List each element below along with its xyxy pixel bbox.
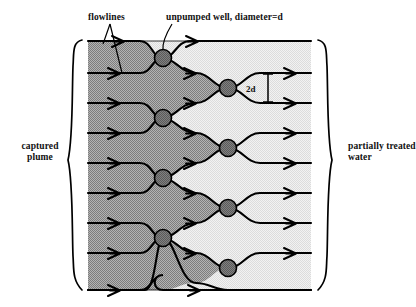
spacing-2d-label: 2d — [246, 84, 256, 94]
partially-treated-water-label: partially treated water — [348, 141, 416, 162]
unpumped-well[interactable] — [155, 50, 172, 67]
unpumped-well[interactable] — [155, 110, 172, 127]
unpumped-well-label: unpumped well, diameter=d — [166, 12, 283, 23]
left-brace — [68, 40, 82, 290]
unpumped-well[interactable] — [220, 140, 237, 157]
unpumped-well[interactable] — [220, 260, 237, 277]
flowlines-label: flowlines — [88, 12, 125, 23]
diagram-canvas: flowlines unpumped well, diameter=d 2d c… — [0, 0, 416, 307]
unpumped-well[interactable] — [220, 200, 237, 217]
captured-plume-label: captured plume — [9, 141, 71, 162]
right-brace — [318, 40, 332, 290]
unpumped-well[interactable] — [220, 80, 237, 97]
unpumped-well[interactable] — [155, 170, 172, 187]
unpumped-well[interactable] — [155, 230, 172, 247]
